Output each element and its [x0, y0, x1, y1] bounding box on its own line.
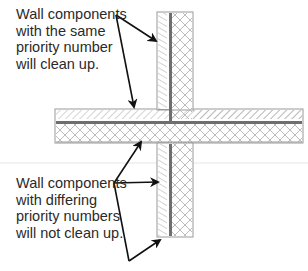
vertical-wall-insulation-bottom — [172, 142, 192, 236]
differing-priority-label-line: with differing — [16, 192, 127, 209]
differing-priority-label-line: Wall components — [16, 175, 127, 192]
same-priority-label-line: with the same — [16, 23, 127, 40]
vertical-wall-insulation-top — [172, 13, 192, 123]
vertical-wall-top — [157, 12, 193, 123]
same-priority-label-line: will clean up. — [16, 56, 127, 73]
vertical-wall-core-line-top — [169, 13, 172, 121]
vertical-wall-finish-layer-bottom — [158, 144, 167, 236]
diagram-canvas: Wall components with the same priority n… — [0, 0, 308, 271]
same-priority-label-line: priority number — [16, 39, 127, 56]
horizontal-wall-insulation-layer — [56, 124, 302, 142]
same-priority-label-line: Wall components — [16, 6, 127, 23]
vertical-wall-core-line-bottom — [169, 144, 172, 236]
differing-priority-label: Wall components with differing priority … — [16, 175, 127, 241]
differing-priority-label-line: will not clean up. — [16, 225, 127, 242]
arrow-to-vertical-wall-end — [129, 240, 160, 261]
same-priority-label: Wall components with the same priority n… — [16, 6, 127, 72]
vertical-wall-bottom — [157, 142, 193, 237]
vertical-wall-finish-layer-top — [158, 13, 167, 109]
differing-priority-label-line: priority numbers — [16, 208, 127, 225]
